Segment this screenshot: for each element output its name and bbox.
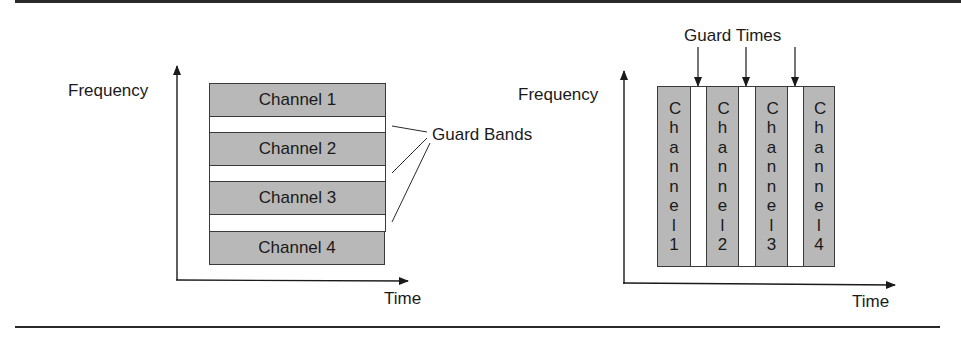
- tdm-guard-time-1: [690, 86, 707, 267]
- fdm-channel-4: Channel 4: [209, 231, 385, 265]
- tdm-frequency-label: Frequency: [518, 86, 598, 103]
- tdm-time-label: Time: [852, 293, 889, 310]
- fdm-guard-band-2: [209, 165, 386, 182]
- tdm-channel-1-text: Channel1: [669, 99, 679, 255]
- guard-times-label: Guard Times: [684, 27, 781, 44]
- tdm-channel-3: Channel3: [755, 86, 788, 267]
- guard-bands-label: Guard Bands: [432, 126, 532, 143]
- fdm-channel-2: Channel 2: [209, 132, 386, 166]
- tdm-channel-2-text: Channel2: [718, 99, 728, 255]
- guard-bands-leaders: [392, 126, 430, 222]
- fdm-time-label: Time: [384, 290, 421, 307]
- tdm-channel-3-text: Channel3: [767, 99, 777, 255]
- tdm-channel-2: Channel2: [706, 86, 739, 267]
- fdm-guard-band-3: [209, 214, 386, 232]
- tdm-guard-time-3: [787, 86, 804, 267]
- fdm-channel-3: Channel 3: [209, 181, 386, 215]
- tdm-channel-1: Channel1: [657, 86, 691, 267]
- fdm-channel-1: Channel 1: [209, 83, 386, 117]
- tdm-channel-4: Channel4: [803, 86, 835, 267]
- tdm-channel-4-text: Channel4: [814, 99, 824, 255]
- fdm-frequency-label: Frequency: [68, 82, 148, 99]
- guard-times-arrows: [698, 47, 795, 86]
- tdm-guard-time-2: [738, 86, 756, 267]
- fdm-guard-band-1: [209, 116, 386, 133]
